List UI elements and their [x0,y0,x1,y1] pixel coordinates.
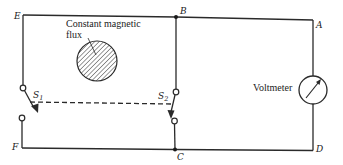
switch-s2 [168,89,179,124]
s2-upper-contact [173,89,179,95]
switch-label-s2: S2 [158,91,168,103]
wire-middle-lower [175,124,176,150]
junction-c [173,148,177,152]
s2-arrow-icon [168,110,175,119]
node-label-f: F [11,142,19,152]
switch-label-s1: S1 [33,90,43,102]
voltmeter-label: Voltmeter [253,82,293,93]
magnetic-flux-region [77,41,117,81]
node-label-e: E [13,11,21,21]
s1-fixed-contact [19,115,25,121]
voltmeter [299,76,327,104]
node-label-a: A [315,20,323,30]
s2-lower-contact [172,118,178,124]
junction-b [174,15,178,19]
switch-gang-link [30,102,172,104]
flux-label-line2: flux [66,29,82,40]
flux-label-line1: Constant magnetic [66,18,141,29]
s2-blade [171,95,175,112]
circuit-diagram: Constant magnetic flux E B A F C D S1 S2… [0,0,343,165]
s1-pivot-contact [20,85,26,91]
node-label-d: D [315,144,323,154]
wire-bottom [22,148,313,151]
node-label-b: B [179,6,187,16]
node-label-c: C [177,152,184,162]
